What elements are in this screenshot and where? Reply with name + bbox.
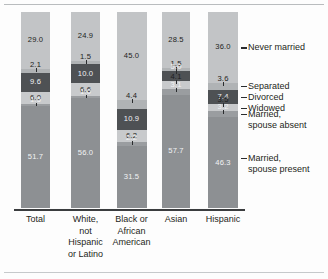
segment-divorced[interactable]: 10.0 bbox=[71, 64, 100, 84]
stacked-bar-chart: 29.02.19.66.01.551.724.91.510.06.61.056.… bbox=[0, 0, 328, 279]
x-tick-label-hispanic: Hispanic bbox=[195, 214, 251, 226]
segment-value-label: 24.9 bbox=[71, 32, 100, 40]
segment-married-spouse-present[interactable]: 56.0 bbox=[71, 98, 100, 208]
segment-value-label: 4.4 bbox=[117, 92, 147, 100]
segment-value-label: 56.0 bbox=[71, 149, 100, 157]
segment-value-label: 36.0 bbox=[208, 43, 238, 51]
segment-value-label: 3.6 bbox=[208, 75, 238, 83]
segment-separated[interactable]: 4.4 bbox=[117, 100, 147, 109]
segment-divorced[interactable]: 9.6 bbox=[21, 73, 50, 92]
segment-married-spouse-present[interactable]: 57.7 bbox=[162, 95, 190, 208]
legend-item-divorced[interactable]: Divorced bbox=[241, 92, 284, 103]
segment-value-label: 1.5 bbox=[71, 53, 100, 61]
legend-item-never-married[interactable]: Never married bbox=[241, 42, 305, 53]
bar-black-or-african-american[interactable]: 45.04.410.96.22.231.5 bbox=[117, 12, 147, 208]
segment-value-label: 3.1 bbox=[162, 81, 190, 89]
segment-value-label: 29.0 bbox=[21, 36, 50, 44]
segment-value-label: 1.0 bbox=[71, 88, 100, 96]
bar-total[interactable]: 29.02.19.66.01.551.7 bbox=[21, 12, 50, 208]
segment-value-label: 2.2 bbox=[117, 134, 147, 142]
segment-divorced[interactable]: 10.9 bbox=[117, 109, 147, 130]
legend-item-married-spouse-absent[interactable]: Married, spouse absent bbox=[241, 109, 307, 131]
segment-value-label: 51.7 bbox=[21, 153, 50, 161]
segment-married-spouse-present[interactable]: 46.3 bbox=[208, 117, 238, 208]
segment-separated[interactable]: 3.6 bbox=[208, 83, 238, 90]
legend-item-married-spouse-present[interactable]: Married, spouse present bbox=[241, 153, 310, 175]
segment-value-label: 28.5 bbox=[162, 36, 190, 44]
segment-married-spouse-present[interactable]: 31.5 bbox=[117, 146, 147, 208]
segment-never-married[interactable]: 36.0 bbox=[208, 12, 238, 83]
segment-value-label: 9.6 bbox=[21, 78, 50, 86]
x-tick-label-total: Total bbox=[8, 214, 63, 226]
segment-never-married[interactable]: 45.0 bbox=[117, 12, 147, 100]
segment-value-label: 45.0 bbox=[117, 52, 147, 60]
segment-value-label: 1.5 bbox=[21, 96, 50, 104]
segment-value-label: 57.7 bbox=[162, 147, 190, 155]
bar-white-not-hispanic-or-latino[interactable]: 24.91.510.06.61.056.0 bbox=[71, 12, 100, 208]
bar-hispanic[interactable]: 36.03.67.43.53.246.3 bbox=[208, 12, 238, 208]
bar-asian[interactable]: 28.51.55.04.13.157.7 bbox=[162, 12, 190, 208]
segment-married-spouse-present[interactable]: 51.7 bbox=[21, 106, 50, 207]
segment-value-label: 3.2 bbox=[208, 103, 238, 111]
segment-value-label: 31.5 bbox=[117, 173, 147, 181]
segment-value-label: 10.9 bbox=[117, 115, 147, 123]
segment-value-label: 46.3 bbox=[208, 159, 238, 167]
chart-page: 29.02.19.66.01.551.724.91.510.06.61.056.… bbox=[0, 0, 328, 279]
segment-value-label: 10.0 bbox=[71, 70, 100, 78]
segment-value-label: 2.1 bbox=[21, 61, 50, 69]
segment-value-label: 5.0 bbox=[162, 63, 190, 71]
legend-item-separated[interactable]: Separated bbox=[241, 81, 290, 92]
x-axis-line bbox=[14, 209, 245, 211]
